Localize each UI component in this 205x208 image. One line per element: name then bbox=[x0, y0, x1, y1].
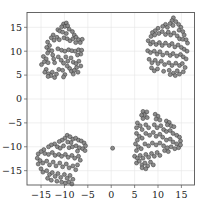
data-point bbox=[72, 68, 76, 72]
data-point bbox=[46, 61, 50, 65]
data-point bbox=[178, 135, 182, 139]
data-point bbox=[179, 143, 183, 147]
data-point bbox=[147, 155, 151, 159]
data-point bbox=[186, 41, 190, 45]
data-point bbox=[66, 140, 70, 144]
y-tick-label: −5 bbox=[8, 117, 22, 128]
data-point bbox=[66, 155, 70, 159]
data-point bbox=[76, 53, 80, 57]
data-point bbox=[74, 41, 78, 45]
data-point bbox=[182, 33, 186, 37]
y-axis: −15−10−5051015 bbox=[2, 22, 27, 176]
data-point bbox=[153, 33, 157, 37]
data-point bbox=[79, 64, 83, 68]
data-point bbox=[51, 160, 55, 164]
data-point bbox=[161, 135, 165, 139]
data-point bbox=[54, 164, 58, 168]
data-point bbox=[178, 72, 182, 76]
data-point bbox=[156, 67, 160, 71]
data-point bbox=[147, 126, 151, 130]
data-point bbox=[43, 152, 47, 156]
data-point bbox=[143, 142, 147, 146]
data-point bbox=[175, 142, 179, 146]
y-tick-label: −15 bbox=[2, 165, 22, 176]
data-points bbox=[35, 16, 189, 186]
data-point bbox=[144, 167, 148, 171]
data-point bbox=[63, 49, 67, 53]
data-point bbox=[48, 163, 52, 167]
data-point bbox=[73, 156, 77, 160]
data-point bbox=[154, 143, 158, 147]
data-point bbox=[167, 68, 171, 72]
data-point bbox=[144, 131, 148, 135]
data-point bbox=[149, 34, 153, 38]
data-point bbox=[171, 52, 175, 56]
data-point bbox=[67, 166, 71, 170]
data-point bbox=[76, 149, 80, 153]
data-point bbox=[45, 159, 49, 163]
data-point bbox=[52, 57, 56, 61]
data-point bbox=[62, 75, 66, 79]
data-point bbox=[60, 180, 64, 184]
data-point bbox=[55, 72, 59, 76]
data-point bbox=[46, 51, 50, 55]
data-point bbox=[153, 58, 157, 62]
data-point bbox=[140, 166, 144, 170]
data-point bbox=[70, 145, 74, 149]
data-point bbox=[36, 162, 40, 166]
data-point bbox=[77, 59, 81, 63]
data-point bbox=[69, 56, 73, 60]
data-point bbox=[57, 67, 61, 71]
data-point bbox=[162, 69, 166, 73]
scatter-chart: −15−10−5051015 −15−10−5051015 bbox=[0, 0, 205, 208]
data-point bbox=[183, 66, 187, 70]
y-tick-label: −10 bbox=[2, 141, 22, 152]
data-point bbox=[43, 70, 47, 74]
x-axis: −15−10−5051015 bbox=[31, 185, 187, 200]
x-tick-label: −5 bbox=[81, 189, 95, 200]
data-point bbox=[64, 162, 68, 166]
x-tick-label: 15 bbox=[175, 189, 187, 200]
data-point bbox=[149, 51, 153, 55]
data-point bbox=[59, 175, 63, 179]
x-tick-label: −15 bbox=[31, 189, 51, 200]
data-point bbox=[152, 154, 156, 158]
data-point bbox=[172, 31, 176, 35]
x-tick-label: 5 bbox=[132, 189, 138, 200]
data-point bbox=[159, 124, 163, 128]
cluster-bottom-left bbox=[35, 133, 87, 186]
data-point bbox=[53, 61, 57, 65]
data-point bbox=[62, 173, 66, 177]
data-point bbox=[139, 147, 143, 151]
data-point bbox=[63, 181, 67, 185]
data-point bbox=[173, 74, 177, 78]
data-point bbox=[71, 177, 75, 181]
data-point bbox=[175, 54, 179, 58]
data-point bbox=[172, 125, 176, 129]
data-point bbox=[145, 116, 149, 120]
x-tick-label: 0 bbox=[108, 189, 114, 200]
data-point bbox=[61, 30, 65, 34]
data-point bbox=[66, 59, 70, 63]
data-point bbox=[56, 55, 60, 59]
data-point bbox=[148, 133, 152, 137]
data-point bbox=[141, 156, 145, 160]
x-tick-label: 10 bbox=[152, 189, 164, 200]
data-point bbox=[167, 61, 171, 65]
data-point bbox=[76, 163, 80, 167]
data-point bbox=[161, 53, 165, 57]
data-point bbox=[169, 145, 173, 149]
y-tick-label: 5 bbox=[16, 69, 22, 80]
data-point bbox=[166, 150, 170, 154]
data-point bbox=[76, 70, 80, 74]
data-point bbox=[56, 47, 60, 51]
data-point bbox=[184, 57, 188, 61]
data-point bbox=[171, 131, 175, 135]
y-tick-label: 10 bbox=[10, 46, 22, 57]
data-point bbox=[64, 55, 68, 59]
data-point bbox=[151, 130, 155, 134]
data-point bbox=[140, 136, 144, 140]
data-point bbox=[137, 159, 141, 163]
data-point bbox=[56, 172, 60, 176]
data-point bbox=[46, 75, 50, 79]
